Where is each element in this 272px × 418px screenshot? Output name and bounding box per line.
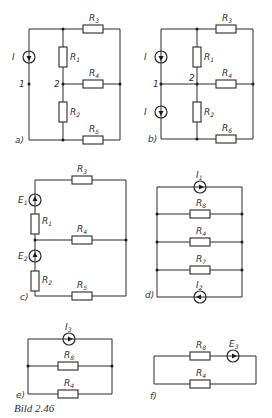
junction-dot [196,83,199,86]
panel-b: I I R3 R1 R4 R2 R6 1 2 b) [144,13,255,144]
label-r4: R4 [77,224,87,235]
panel-e: I3 R8 R4 e) [16,322,114,400]
junction-dot [156,269,159,272]
circuit-figure: I R3 R1 R4 R2 R5 1 2 a) I [0,0,272,418]
label-e2: E2 [18,251,28,262]
panel-c: E1 E2 R1 R2 R3 R4 R5 c) [18,164,128,302]
label-r8: R8 [64,350,74,361]
junction-dot [62,139,65,142]
resistor-r4 [83,80,103,88]
resistor-r4 [72,236,92,244]
current-source-i1-icon [194,181,206,193]
junction-dot [156,241,159,244]
current-source-icon [23,51,35,63]
resistor-r1 [31,214,39,234]
label-r2: R2 [204,107,214,118]
label-r2: R2 [42,275,52,286]
label-r5: R5 [77,280,87,291]
resistor-r2 [59,102,67,122]
label-node-2: 2 [54,79,60,89]
label-node-1: 1 [19,79,25,89]
resistor-r2 [31,271,39,291]
label-node-1: 1 [153,79,159,89]
label-r6: R6 [222,123,232,134]
resistor-r3 [72,176,92,184]
current-source-i2-icon [194,291,206,303]
panel-d: I1 R8 R4 R7 I2 d) [145,170,244,303]
label-r4: R4 [196,368,206,379]
label-node-2: 2 [189,73,195,83]
resistor-r4 [58,390,78,398]
panel-label-b: b) [148,134,157,144]
junction-dot [62,83,65,86]
label-e1: E1 [18,195,28,206]
junction-dot [252,83,255,86]
label-source-bottom: I [144,107,147,117]
label-source: I [12,52,15,62]
label-r4: R4 [89,68,99,79]
voltage-source-e2-icon [29,250,41,262]
resistor-r1 [59,47,67,67]
resistor-r4 [216,80,236,88]
junction-dot [119,83,122,86]
junction-dot [62,28,65,31]
resistor-r4 [190,238,210,246]
label-r3: R3 [222,13,232,24]
junction-dot [156,213,159,216]
resistor-r8 [58,362,78,370]
label-r1: R1 [204,52,214,63]
junction-dot [111,365,114,368]
label-i3: I3 [65,322,72,333]
junction-dot [241,213,244,216]
junction-dot [196,28,199,31]
voltage-source-e3-icon [227,350,239,362]
label-r8: R8 [196,198,206,209]
figure-caption: Bild 2.46 [14,402,55,414]
resistor-r1 [193,47,201,67]
junction-dot [27,365,30,368]
resistor-r5 [72,292,92,300]
label-r8: R8 [196,340,206,351]
resistor-r2 [193,102,201,122]
label-r1: R1 [42,216,52,227]
label-e3: E3 [229,339,239,350]
label-r2: R2 [70,107,80,118]
resistor-r7 [190,266,210,274]
label-r4: R4 [64,378,74,389]
label-source-top: I [144,52,147,62]
label-r3: R3 [77,164,87,175]
resistor-r3 [83,25,103,33]
label-r5: R5 [89,124,99,135]
label-i2: I2 [196,280,203,291]
label-r3: R3 [89,13,99,24]
junction-dot [125,239,128,242]
panel-label-c: c) [20,292,28,302]
junction-dot [160,83,163,86]
junction-dot [241,241,244,244]
junction-dot [196,138,199,141]
voltage-source-e1-icon [29,194,41,206]
panel-label-a: a) [15,135,24,145]
panel-label-f: f) [150,391,157,401]
resistor-r8 [190,210,210,218]
current-source-i3-icon [63,333,75,345]
panel-a: I R3 R1 R4 R2 R5 1 2 a) [12,13,122,145]
label-r7: R7 [196,254,206,265]
label-r4: R4 [222,68,232,79]
junction-dot [34,239,37,242]
junction-dot [28,83,31,86]
label-r4: R4 [196,226,206,237]
label-r1: R1 [70,52,80,63]
panel-label-d: d) [145,290,154,300]
panel-label-e: e) [16,390,25,400]
junction-dot [241,269,244,272]
current-source-icon [155,51,167,63]
current-source-icon [155,106,167,118]
resistor-r4 [190,380,210,388]
resistor-r8 [190,352,210,360]
resistor-r3 [216,25,236,33]
resistor-r5 [83,136,103,144]
resistor-r6 [216,135,236,143]
panel-f: R8 E3 R4 f) [150,339,256,401]
label-i1: I1 [196,170,202,181]
